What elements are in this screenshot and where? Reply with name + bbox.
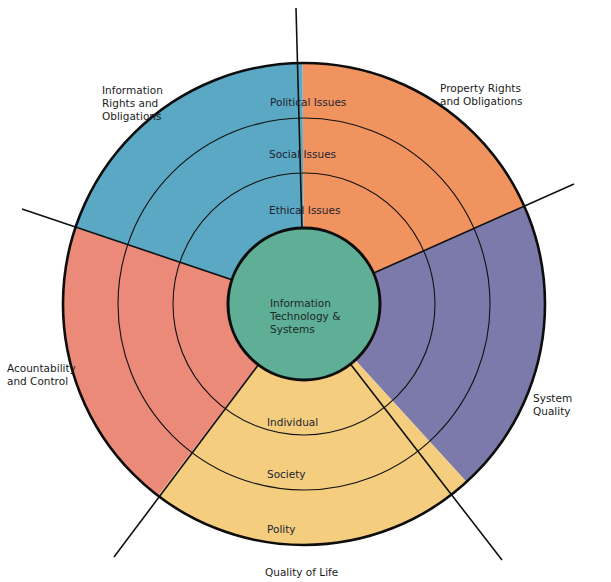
dimension-label-information-rights: Information Rights and Obligations — [102, 84, 163, 123]
dimension-label-system-quality: System Quality — [533, 392, 611, 418]
dimension-label-quality-of-life: Quality of Life — [265, 566, 338, 579]
ring-label-social-issues: Social Issues — [269, 148, 336, 161]
ring-label-polity: Polity — [267, 523, 296, 536]
ring-label-individual: Individual — [267, 416, 318, 429]
ring-label-political-issues: Political Issues — [270, 96, 346, 109]
ring-label-society: Society — [267, 468, 306, 481]
center-label: Information Technology & Systems — [270, 297, 340, 336]
dimension-label-accountability: Acountability and Control — [7, 362, 76, 388]
dimension-label-property-rights: Property Rights and Obligations — [440, 82, 523, 108]
ring-label-ethical-issues: Ethical Issues — [269, 204, 340, 217]
